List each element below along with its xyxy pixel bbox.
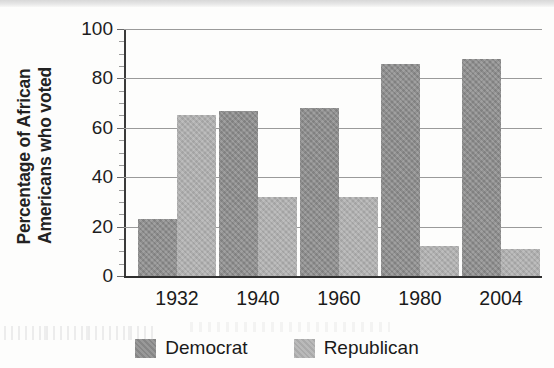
bar-group-2004 <box>462 29 540 276</box>
y-tick-label-0: 0 <box>102 265 113 287</box>
legend-label-republican: Republican <box>324 337 419 359</box>
bar-democrat-1940 <box>219 111 258 276</box>
bar-group-1932 <box>138 29 216 276</box>
x-tick-label-1940: 1940 <box>236 287 279 310</box>
bar-group-1980 <box>381 29 459 276</box>
legend-item-democrat[interactable]: Democrat <box>135 337 247 359</box>
plot-area: 020406080100 <box>124 29 542 278</box>
bar-republican-1980 <box>420 246 459 276</box>
scan-edge-artifact <box>0 0 554 7</box>
bar-democrat-1960 <box>300 108 339 276</box>
x-axis-tick-labels: 19321940196019802004 <box>124 287 542 313</box>
x-tick-label-1980: 1980 <box>398 287 441 310</box>
bar-group-1940 <box>219 29 297 276</box>
legend-swatch-democrat <box>135 339 156 358</box>
x-tick-label-1960: 1960 <box>317 287 360 310</box>
legend-swatch-republican <box>294 339 315 358</box>
y-tick-major-0 <box>117 276 124 277</box>
y-tick-label-20: 20 <box>92 215 113 237</box>
y-tick-major-80 <box>117 78 124 79</box>
x-axis-line <box>124 276 542 278</box>
y-tick-label-80: 80 <box>92 67 113 89</box>
y-tick-major-60 <box>117 128 124 129</box>
bar-group-1960 <box>300 29 378 276</box>
legend-label-democrat: Democrat <box>165 337 247 359</box>
y-axis-title-line-2: Americans who voted <box>35 67 56 244</box>
chart-canvas: Percentage of African Americans who vote… <box>0 0 554 368</box>
y-axis-title-line-1: Percentage of African <box>14 68 35 244</box>
y-tick-label-60: 60 <box>92 116 113 138</box>
y-tick-label-40: 40 <box>92 166 113 188</box>
chart-legend: DemocratRepublican <box>0 334 554 362</box>
bar-republican-1960 <box>339 197 378 276</box>
bar-democrat-1980 <box>381 64 420 276</box>
bar-series-layer <box>124 29 542 276</box>
y-tick-label-100: 100 <box>81 18 113 40</box>
scan-bleed-artifact-center <box>190 322 390 332</box>
x-tick-label-1932: 1932 <box>155 287 198 310</box>
legend-item-republican[interactable]: Republican <box>294 337 419 359</box>
x-tick-label-2004: 2004 <box>479 287 522 310</box>
y-tick-major-40 <box>117 177 124 178</box>
bar-democrat-2004 <box>462 59 501 276</box>
bar-republican-1932 <box>177 115 216 276</box>
bar-republican-1940 <box>258 197 297 276</box>
y-axis-title: Percentage of African Americans who vote… <box>14 18 84 293</box>
bar-republican-2004 <box>501 249 540 276</box>
y-tick-major-100 <box>117 29 124 30</box>
y-tick-major-20 <box>117 227 124 228</box>
bar-democrat-1932 <box>138 219 177 276</box>
